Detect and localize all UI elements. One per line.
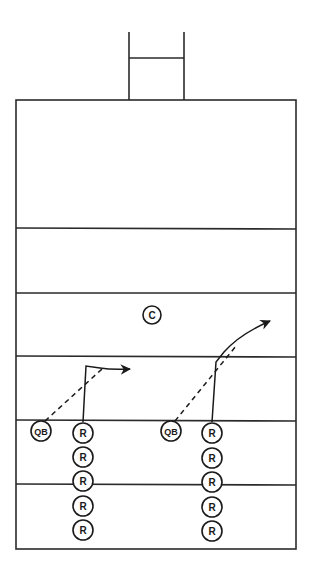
goalpost — [129, 32, 184, 100]
player-receiver-left-2: R — [73, 447, 93, 467]
player-receiver-right-5: R — [202, 521, 222, 541]
field — [16, 100, 296, 549]
player-label: R — [79, 428, 87, 439]
player-receiver-right-2: R — [202, 448, 222, 468]
player-receiver-right-3: R — [202, 472, 222, 492]
player-label: R — [79, 476, 87, 487]
player-receiver-left-3: R — [73, 471, 93, 491]
left-receiver-route-arrow — [83, 366, 130, 422]
yard-line-3 — [16, 356, 296, 357]
player-label: R — [79, 525, 87, 536]
yard-line-4 — [16, 420, 296, 421]
player-receiver-left-4: R — [73, 496, 93, 516]
player-receiver-left-5: R — [73, 520, 93, 540]
right-receiver-route-arrow — [212, 321, 270, 422]
field-boundary — [16, 100, 296, 549]
player-label: R — [208, 428, 216, 439]
player-label: R — [208, 453, 216, 464]
left-play-routes — [45, 366, 130, 422]
player-label: C — [148, 310, 155, 321]
player-receiver-right-1: R — [202, 423, 222, 443]
player-label: R — [208, 502, 216, 513]
yard-line-5 — [16, 484, 296, 485]
player-label: R — [208, 526, 216, 537]
player-qb-left: QB — [31, 421, 51, 441]
yard-line-1 — [16, 228, 296, 229]
player-receiver-right-4: R — [202, 497, 222, 517]
play-diagram: C QB QB R R R R R R R R — [0, 0, 314, 570]
player-label: R — [79, 452, 87, 463]
right-play-routes — [175, 321, 270, 422]
player-qb-right: QB — [161, 421, 181, 441]
player-receiver-left-1: R — [73, 423, 93, 443]
player-center: C — [143, 306, 161, 324]
player-label: QB — [34, 427, 48, 437]
player-label: QB — [164, 427, 178, 437]
left-pass-path — [45, 369, 102, 421]
player-label: R — [79, 501, 87, 512]
player-label: R — [208, 477, 216, 488]
